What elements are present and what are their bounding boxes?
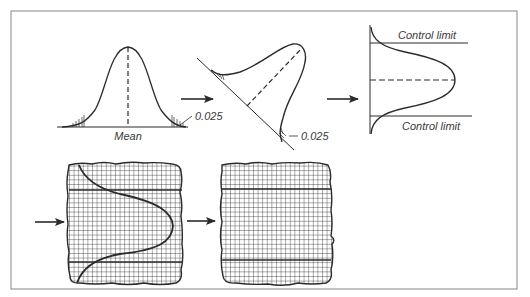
diagram-canvas: Mean 0.025 0.025 Control limit Control [0,0,530,297]
tail-probability-label-1: 0.025 [195,110,223,122]
lower-control-label: Control limit [402,120,461,132]
control-chart-panel: Control limit Control limit [370,25,472,134]
normal-curve-panel: Mean 0.025 [57,47,223,142]
tail-leader-line [180,116,192,125]
skewed-curve-panel: 0.025 [197,44,329,150]
skewed-baseline [197,58,294,150]
grid-with-limits-panel [221,162,334,285]
grid-1-paper [67,162,183,284]
upper-control-label: Control limit [398,29,457,41]
tail-probability-label-2: 0.025 [301,130,329,142]
grid-with-curve-panel [67,162,183,284]
skewed-mode-line [247,49,301,106]
mean-label: Mean [114,130,142,142]
normal-curve [62,47,186,127]
grid-2-paper [221,162,334,285]
